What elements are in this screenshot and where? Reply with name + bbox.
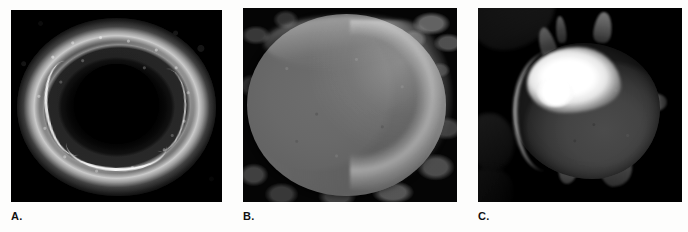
micrograph-c-vignette [478, 8, 682, 202]
micrograph-c-echinocyte [478, 8, 682, 202]
figure-plate: A. B. [0, 0, 688, 232]
panel-c [478, 8, 682, 202]
micrograph-b-spherocyte [243, 8, 457, 202]
panel-a [11, 10, 222, 202]
panel-label-a: A. [11, 210, 22, 222]
panel-label-b: B. [243, 210, 254, 222]
panel-b [243, 8, 457, 202]
spherocyte-surface-grain [247, 14, 446, 196]
panel-label-c: C. [478, 210, 489, 222]
micrograph-a-discocyte [11, 10, 222, 202]
micrograph-a-vignette [11, 10, 222, 202]
